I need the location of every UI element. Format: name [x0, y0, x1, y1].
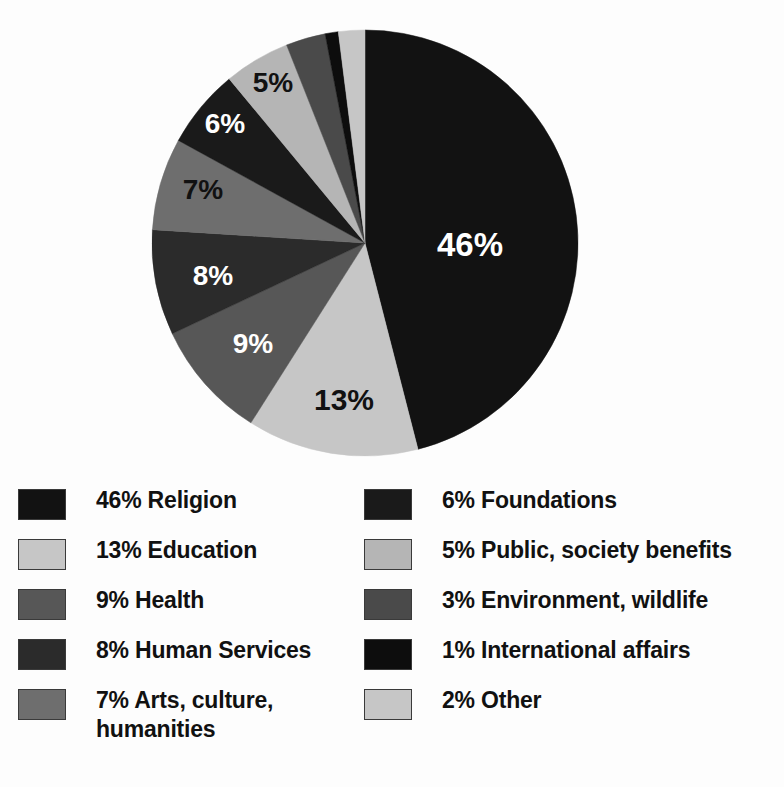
- legend-swatch: [18, 689, 66, 720]
- pie-slice-label: 6%: [205, 108, 246, 139]
- legend-item[interactable]: 9% Health: [18, 586, 358, 624]
- legend-label: 13% Education: [96, 536, 257, 565]
- legend-column-right: 6% Foundations5% Public, society benefit…: [364, 486, 774, 736]
- legend-swatch: [364, 489, 412, 520]
- legend-item[interactable]: 3% Environment, wildlife: [364, 586, 774, 624]
- chart-legend: 46% Religion13% Education9% Health8% Hum…: [0, 486, 784, 786]
- legend-label: 46% Religion: [96, 486, 237, 515]
- legend-label: 9% Health: [96, 586, 204, 615]
- legend-item[interactable]: 13% Education: [18, 536, 358, 574]
- legend-item[interactable]: 5% Public, society benefits: [364, 536, 774, 574]
- legend-swatch: [364, 639, 412, 670]
- legend-label: 5% Public, society benefits: [442, 536, 732, 565]
- legend-label: 2% Other: [442, 686, 541, 715]
- legend-label: 7% Arts, culture, humanities: [96, 686, 273, 745]
- legend-swatch: [364, 539, 412, 570]
- legend-swatch: [364, 689, 412, 720]
- legend-swatch: [18, 489, 66, 520]
- pie-chart-svg: 46%13%9%8%7%6%5%: [0, 0, 784, 478]
- legend-item[interactable]: 46% Religion: [18, 486, 358, 524]
- legend-item[interactable]: 6% Foundations: [364, 486, 774, 524]
- legend-label: 6% Foundations: [442, 486, 617, 515]
- pie-slice-label: 13%: [314, 383, 374, 416]
- legend-swatch: [364, 589, 412, 620]
- legend-item[interactable]: 1% International affairs: [364, 636, 774, 674]
- pie-slice-label: 8%: [193, 260, 234, 291]
- legend-item[interactable]: 7% Arts, culture, humanities: [18, 686, 358, 745]
- legend-label: 3% Environment, wildlife: [442, 586, 708, 615]
- pie-chart-figure: 46%13%9%8%7%6%5%: [0, 0, 784, 478]
- legend-label: 1% International affairs: [442, 636, 690, 665]
- legend-swatch: [18, 589, 66, 620]
- pie-slice-label: 7%: [183, 174, 224, 205]
- legend-item[interactable]: 2% Other: [364, 686, 774, 724]
- legend-swatch: [18, 539, 66, 570]
- pie-slice-label: 9%: [233, 328, 274, 359]
- legend-label: 8% Human Services: [96, 636, 311, 665]
- pie-slice-label: 5%: [253, 67, 294, 98]
- legend-swatch: [18, 639, 66, 670]
- pie-slice-label: 46%: [437, 226, 503, 263]
- legend-item[interactable]: 8% Human Services: [18, 636, 358, 674]
- legend-column-left: 46% Religion13% Education9% Health8% Hum…: [18, 486, 358, 757]
